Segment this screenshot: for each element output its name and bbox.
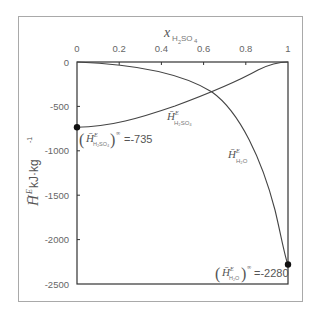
svg-text:∞: ∞ [247, 264, 251, 270]
svg-text:x: x [163, 25, 171, 40]
svg-text:H̄: H̄ [25, 194, 41, 207]
y-tick-label: -2000 [45, 234, 69, 245]
x-tick-label: 0.8 [239, 43, 252, 54]
series-h2o-line [77, 62, 288, 265]
series-h2so4-line [77, 62, 288, 127]
x-tick-label: 0.6 [197, 43, 210, 54]
svg-text:): ) [110, 131, 115, 149]
annotation-h2o-infinite: ( H̄ E H₂O ) ∞ =-2280 [215, 264, 289, 283]
y-tick-labels: 0 -500 -1000 -1500 -2000 -2500 [45, 57, 69, 290]
svg-text:E: E [235, 148, 240, 154]
svg-text:=-2280: =-2280 [254, 267, 289, 279]
svg-text:kJ·kg: kJ·kg [27, 159, 41, 188]
y-tick-label: -500 [50, 101, 69, 112]
y-tick-label: -1000 [45, 145, 69, 156]
svg-text:(: ( [215, 265, 220, 283]
svg-text:H₂SO₄: H₂SO₄ [174, 120, 192, 126]
svg-text:(: ( [79, 131, 84, 149]
svg-text:=-735: =-735 [124, 133, 152, 145]
svg-text:H₂O: H₂O [229, 275, 240, 281]
label-h2so4-curve: H̄ E H₂SO₄ [166, 110, 192, 126]
y-axis-title: H̄ E kJ·kg -1 [25, 137, 41, 207]
x-axis-title: x H 2 SO 4 [163, 25, 198, 45]
chart-svg: 0 0.2 0.4 0.6 0.8 1 x H 2 SO 4 0 -500 -1… [0, 0, 315, 316]
svg-text:∞: ∞ [116, 130, 120, 136]
svg-text:SO: SO [181, 34, 193, 43]
y-tick-label: -2500 [45, 279, 69, 290]
x-tick-labels: 0 0.2 0.4 0.6 0.8 1 [74, 43, 290, 54]
x-tick-label: 1 [285, 43, 290, 54]
y-tick-label: 0 [64, 57, 69, 68]
svg-text:E: E [25, 189, 34, 195]
svg-text:): ) [241, 265, 246, 283]
svg-text:E: E [229, 266, 234, 272]
svg-text:-1: -1 [26, 137, 33, 143]
marker-h2so4-infinite-dilution [74, 124, 80, 130]
svg-text:E: E [93, 132, 98, 138]
annotation-h2so4-infinite: ( H̄ E H₂SO₄ ) ∞ =-735 [79, 130, 152, 149]
x-tick-label: 0 [74, 43, 79, 54]
label-h2o-curve: H̄ E H₂O [227, 148, 248, 164]
svg-text:H₂SO₄: H₂SO₄ [93, 141, 110, 147]
x-tick-label: 0.2 [113, 43, 126, 54]
x-tick-label: 0.4 [155, 43, 168, 54]
svg-text:H₂O: H₂O [236, 158, 248, 164]
plot-area [77, 62, 288, 284]
svg-text:E: E [174, 110, 179, 116]
y-tick-label: -1500 [45, 190, 69, 201]
